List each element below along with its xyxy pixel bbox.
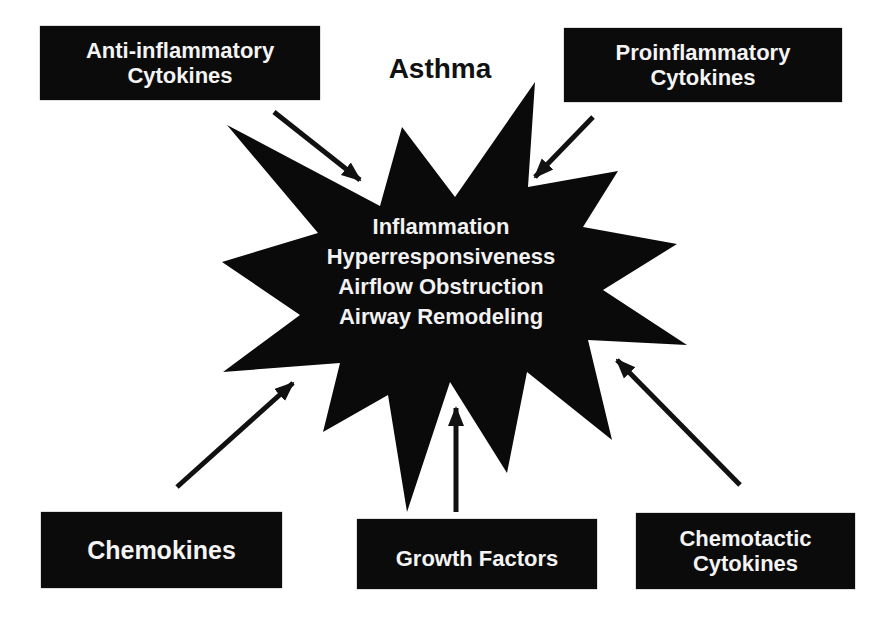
arrow-chemotactic-icon [617,360,740,485]
box-chemotactic-cytokines: Chemotactic Cytokines [636,513,855,589]
center-line-inflammation: Inflammation [300,212,582,242]
box-label-line: Chemokines [87,536,236,565]
center-line-airway-remodeling: Airway Remodeling [300,302,582,332]
box-label-line: Cytokines [650,65,755,90]
box-label-line: Anti-inflammatory [86,38,274,63]
arrow-proinflammatory-icon [535,117,593,177]
box-anti-inflammatory-cytokines: Anti-inflammatory Cytokines [40,26,320,100]
box-label-line: Growth Factors [396,536,559,571]
center-line-hyperresponsiveness: Hyperresponsiveness [300,242,582,272]
arrow-chemokines-icon [177,383,293,487]
center-condition-list: Inflammation Hyperresponsiveness Airflow… [300,212,582,332]
box-label-line: Chemotactic [679,526,811,551]
center-line-airflow-obstruction: Airflow Obstruction [300,272,582,302]
box-chemokines: Chemokines [41,512,282,588]
asthma-diagram: Asthma Inflammation Hyperresponsiveness … [0,0,895,618]
box-proinflammatory-cytokines: Proinflammatory Cytokines [564,28,842,102]
box-label-line: Cytokines [693,551,798,576]
box-label-line: Proinflammatory [616,40,791,65]
box-growth-factors: Growth Factors [357,519,597,589]
diagram-title: Asthma [372,53,508,85]
box-label-line: Cytokines [127,63,232,88]
